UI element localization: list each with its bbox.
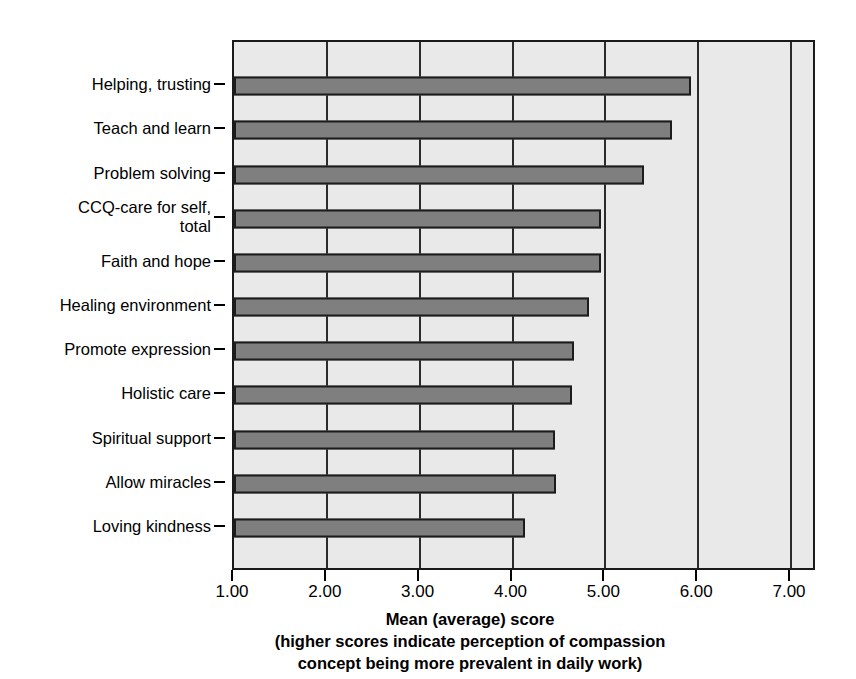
category-label: Allow miracles [106,472,211,491]
category-tick [214,437,225,439]
x-axis: 1.002.003.004.005.006.007.00 [232,570,815,610]
x-tick [510,570,512,581]
x-tick-label: 1.00 [215,582,248,602]
bar [234,121,672,140]
x-tick-label: 5.00 [587,582,620,602]
x-axis-title-line-1: Mean (average) score [160,608,780,630]
horizontal-bar-chart: Helping, trustingTeach and learnProblem … [0,0,856,679]
category-label: Teach and learn [94,119,211,138]
bar [234,386,572,405]
bar [234,298,589,317]
x-tick [788,570,790,581]
x-tick [602,570,604,581]
category-tick [214,392,225,394]
category-tick [214,172,225,174]
x-tick-label: 3.00 [401,582,434,602]
x-tick-label: 7.00 [772,582,805,602]
category-tick [214,127,225,129]
category-tick [214,481,225,483]
category-tick [214,348,225,350]
category-label: Healing environment [60,296,211,315]
x-axis-title-line-3: concept being more prevalent in daily wo… [160,652,780,674]
bar [234,474,556,493]
category-label: Helping, trusting [92,75,211,94]
x-tick-label: 4.00 [494,582,527,602]
bar [234,342,574,361]
category-tick [214,525,225,527]
x-tick-label: 6.00 [680,582,713,602]
category-axis: Helping, trustingTeach and learnProblem … [0,40,225,570]
category-label: CCQ-care for self, total [78,198,211,236]
x-tick [231,570,233,581]
bar [234,77,691,96]
x-tick [324,570,326,581]
category-label: Problem solving [94,163,211,182]
category-tick [214,304,225,306]
x-axis-title: Mean (average) score(higher scores indic… [160,608,780,674]
x-tick [417,570,419,581]
category-label: Spiritual support [92,428,211,447]
category-label: Faith and hope [101,251,211,270]
gridline-7.00 [790,42,792,568]
x-axis-title-line-2: (higher scores indicate perception of co… [160,630,780,652]
category-label: Holistic care [121,384,211,403]
x-tick [695,570,697,581]
category-label: Promote expression [64,340,211,359]
category-tick [214,216,225,218]
category-tick [214,260,225,262]
category-tick [214,83,225,85]
category-label: Loving kindness [93,516,211,535]
plot-area [232,40,815,570]
bar [234,165,644,184]
bar [234,253,601,272]
x-tick-label: 2.00 [308,582,341,602]
bar [234,430,555,449]
bar [234,209,601,228]
bar [234,518,525,537]
gridline-6.00 [697,42,699,568]
